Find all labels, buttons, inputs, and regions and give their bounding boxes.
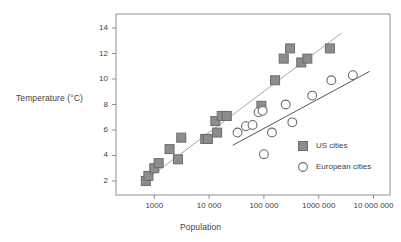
y-tick-label: 8 <box>84 100 108 109</box>
chart-figure: Temperature (°C) Population 246810121410… <box>0 0 401 242</box>
x-tick-label: 1000 <box>124 201 184 210</box>
x-tick-label: 10 000 <box>179 201 239 210</box>
x-tick-label: 1000 000 <box>289 201 349 210</box>
x-tick-label: 100 000 <box>234 201 294 210</box>
legend-entry-label: US cities <box>316 141 348 150</box>
legend-markers <box>299 142 308 172</box>
y-tick-label: 4 <box>84 150 108 159</box>
y-tick-label: 6 <box>84 125 108 134</box>
y-tick-label: 14 <box>84 23 108 32</box>
y-axis-title: Temperature (°C) <box>16 93 83 103</box>
y-tick-label: 10 <box>84 74 108 83</box>
x-tick-label: 10 000 000 <box>344 201 401 210</box>
x-axis-title: Population <box>0 222 401 232</box>
legend-entry-label: European cities <box>316 162 371 171</box>
y-tick-label: 12 <box>84 49 108 58</box>
y-tick-label: 2 <box>84 176 108 185</box>
